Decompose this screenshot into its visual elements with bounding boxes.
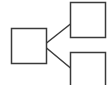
edge-root-to-bottom — [47, 48, 71, 68]
edge-root-to-top — [47, 24, 71, 43]
tree-diagram-icon — [0, 0, 110, 85]
child-node-bottom — [71, 53, 106, 86]
root-node — [12, 29, 47, 64]
child-node-top — [71, 3, 106, 38]
